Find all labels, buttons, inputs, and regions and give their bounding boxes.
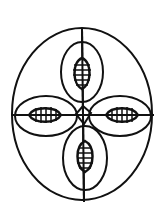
ellipse-lobes-diagram xyxy=(0,0,166,202)
bottom-seed xyxy=(77,141,93,172)
bottom-lobe xyxy=(63,126,107,190)
